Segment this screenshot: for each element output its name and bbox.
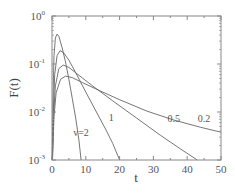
x-axis-label: t bbox=[134, 170, 138, 185]
x-tick-label: 40 bbox=[182, 163, 194, 175]
y-tick-label: 10-2 bbox=[28, 105, 45, 118]
y-tick-label: 10-3 bbox=[28, 153, 45, 166]
y-tick-label: 100 bbox=[31, 9, 46, 22]
chart: 01020304050 10010-110-210-3 v=210.50.2 t… bbox=[0, 0, 235, 196]
x-tick-label: 30 bbox=[148, 163, 160, 175]
y-axis-ticks: 10010-110-210-3 bbox=[28, 9, 221, 166]
x-axis-ticks: 01020304050 bbox=[49, 16, 227, 175]
x-tick-label: 0 bbox=[49, 163, 55, 175]
curve-v-1 bbox=[52, 51, 119, 160]
y-tick-label: 10-1 bbox=[28, 57, 45, 70]
x-tick-label: 50 bbox=[216, 163, 228, 175]
x-tick-label: 10 bbox=[80, 163, 92, 175]
y-axis-label: F(t) bbox=[6, 78, 21, 98]
plot-frame bbox=[52, 16, 221, 160]
curve-label: 0.5 bbox=[167, 113, 180, 124]
curve-label: v=2 bbox=[73, 127, 89, 138]
curve-label: 0.2 bbox=[198, 113, 211, 124]
x-tick-label: 20 bbox=[114, 163, 126, 175]
curve-label: 1 bbox=[109, 112, 114, 123]
curve-labels: v=210.50.2 bbox=[73, 112, 210, 138]
curve-v-2 bbox=[52, 34, 81, 160]
plot-curves bbox=[52, 34, 221, 160]
